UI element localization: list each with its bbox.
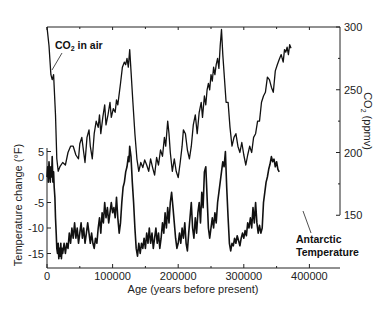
right-tick-label: 150 bbox=[344, 209, 362, 221]
temperature-series-line bbox=[47, 146, 279, 258]
co2-annotation: CO2 in air bbox=[52, 39, 103, 70]
x-axis-ticks: 0100000200000300000400000 bbox=[44, 264, 328, 282]
temperature-annotation-line1: Antarctic bbox=[296, 233, 342, 245]
left-axis-title: Temperature change (°F) bbox=[12, 144, 24, 266]
co2-temperature-chart: 0100000200000300000400000 50-5-10-15 300… bbox=[0, 0, 389, 309]
x-tick-label: 200000 bbox=[160, 270, 197, 282]
co2-annotation-rest: in air bbox=[75, 39, 103, 51]
x-tick-label: 300000 bbox=[225, 270, 262, 282]
left-tick-label: -15 bbox=[28, 248, 44, 260]
right-axis-title-main: CO bbox=[362, 92, 374, 109]
x-tick-label: 100000 bbox=[94, 270, 131, 282]
right-tick-label: 250 bbox=[344, 84, 362, 96]
x-axis-title: Age (years before present) bbox=[128, 283, 259, 295]
left-axis-ticks: 50-5-10-15 bbox=[28, 146, 51, 260]
svg-text:CO2 in air: CO2 in air bbox=[55, 39, 103, 52]
right-axis-title-rest: (ppmv) bbox=[362, 113, 374, 150]
right-axis-title: CO2 (ppmv) bbox=[360, 92, 374, 150]
x-tick-label: 400000 bbox=[291, 270, 328, 282]
co2-annotation-main: CO bbox=[55, 39, 71, 51]
left-tick-label: -5 bbox=[34, 197, 44, 209]
temperature-annotation-leader bbox=[303, 211, 311, 233]
left-tick-label: 0 bbox=[38, 171, 44, 183]
co2-annotation-leader bbox=[52, 53, 62, 70]
left-tick-label: 5 bbox=[38, 146, 44, 158]
temperature-annotation-line2: Temperature bbox=[296, 246, 359, 258]
right-tick-label: 200 bbox=[344, 147, 362, 159]
right-tick-label: 300 bbox=[344, 21, 362, 33]
x-tick-label: 0 bbox=[44, 270, 50, 282]
left-tick-label: -10 bbox=[28, 222, 44, 234]
